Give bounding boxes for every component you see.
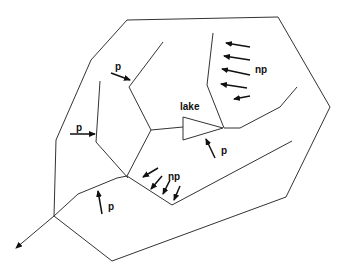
np-arrow-icon — [163, 180, 170, 194]
np-arrow-icon — [222, 69, 250, 75]
label-p: p — [76, 122, 82, 133]
np-arrow-icon — [224, 56, 250, 60]
np-arrow-icon — [221, 84, 247, 88]
np-arrow-icon — [174, 186, 180, 200]
nonpoint-source-arrows-upper — [221, 43, 250, 99]
label-p: p — [108, 201, 114, 212]
np-arrow-icon — [226, 43, 250, 47]
watershed-diagram: p p p p lake np np — [0, 0, 345, 272]
lake-triangle — [183, 117, 223, 140]
point-source-arrows — [70, 73, 215, 214]
p-arrow-icon — [111, 73, 130, 80]
label-p: p — [115, 61, 121, 72]
label-np: np — [168, 171, 180, 182]
np-arrow-icon — [234, 96, 250, 99]
outlet-arrow-icon — [16, 216, 54, 248]
p-arrow-icon — [206, 139, 215, 158]
basin-boundary — [54, 17, 330, 261]
label-np: np — [255, 64, 267, 75]
np-arrow-icon — [151, 176, 162, 189]
p-arrow-icon — [98, 191, 102, 214]
np-arrow-icon — [143, 168, 158, 177]
label-p: p — [221, 145, 227, 156]
label-lake: lake — [180, 101, 200, 112]
